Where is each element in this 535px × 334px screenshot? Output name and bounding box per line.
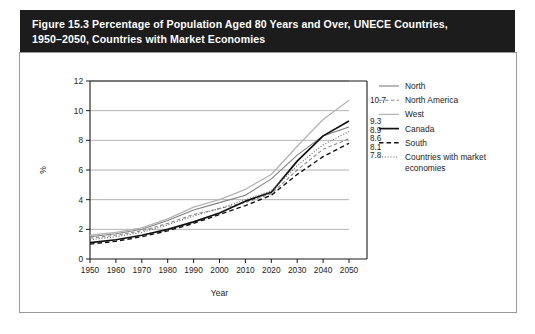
x-tick-label: 2050 — [340, 265, 359, 275]
x-tick-label: 1980 — [158, 265, 177, 275]
y-tick-label: 6 — [78, 165, 83, 175]
legend-label-west: West — [405, 109, 425, 119]
series-line-west — [90, 100, 349, 235]
legend-label-countries-with-market-economies: economies — [405, 163, 446, 173]
y-tick-label: 10 — [74, 106, 84, 116]
y-tick-label: 12 — [74, 76, 84, 86]
x-tick-label: 1990 — [184, 265, 203, 275]
x-tick-label: 2020 — [262, 265, 281, 275]
figure-title: Figure 15.3 Percentage of Population Age… — [32, 17, 503, 46]
y-tick-label: 4 — [78, 195, 83, 205]
x-tick-label: 2040 — [314, 265, 333, 275]
x-tick-label: 1960 — [107, 265, 126, 275]
y-tick-label: 0 — [78, 254, 83, 264]
legend-label-north-america: North America — [405, 95, 458, 105]
x-tick-label: 1950 — [81, 265, 100, 275]
x-tick-label: 2030 — [288, 265, 307, 275]
series-line-north — [90, 127, 349, 237]
figure-container: Figure 15.3 Percentage of Population Age… — [0, 0, 535, 334]
legend-label-north: North — [405, 81, 426, 91]
x-tick-label: 2000 — [210, 265, 229, 275]
y-tick-label: 2 — [78, 224, 83, 234]
legend-label-countries-with-market-economies: Countries with market — [405, 152, 487, 162]
x-tick-label: 1970 — [133, 265, 152, 275]
endpoint-label-west: 10.7 — [370, 96, 386, 105]
series-line-canada — [90, 121, 349, 243]
x-tick-label: 2010 — [236, 265, 255, 275]
chart-frame: 0246810121950196019701980199020002010202… — [19, 52, 517, 313]
figure-title-banner: Figure 15.3 Percentage of Population Age… — [20, 10, 515, 52]
endpoint-label-south: 7.8 — [370, 151, 382, 160]
legend-label-canada: Canada — [405, 124, 435, 134]
line-chart: 0246810121950196019701980199020002010202… — [20, 53, 516, 312]
legend-label-south: South — [405, 138, 427, 148]
y-tick-label: 8 — [78, 135, 83, 145]
x-axis-title: Year — [211, 288, 229, 298]
series-line-north-america — [90, 139, 349, 238]
y-axis-title: % — [38, 166, 48, 174]
